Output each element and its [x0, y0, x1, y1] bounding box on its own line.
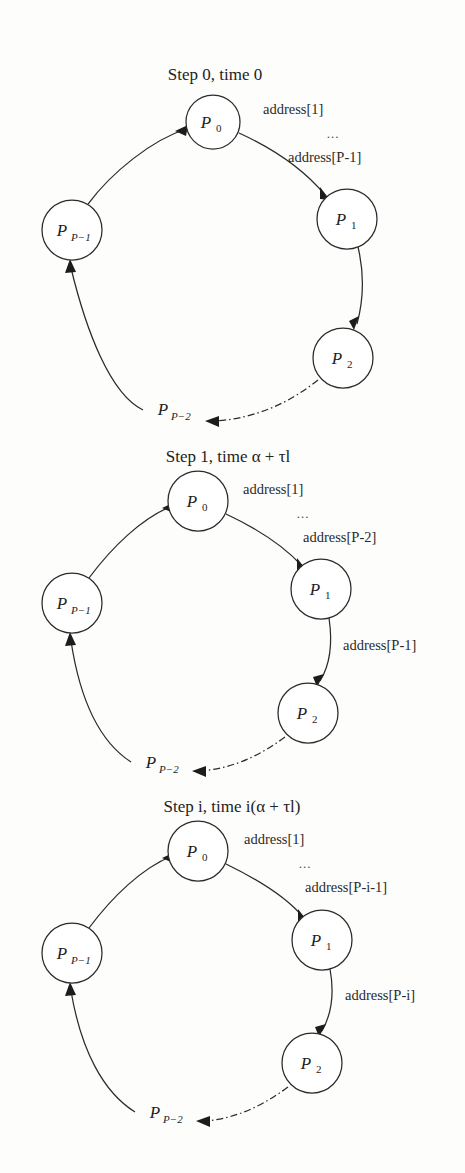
panel-step-1: Step 1, time α + τl P 0 — [42, 447, 416, 777]
node-sublabel-pPm1-step1: P−1 — [70, 604, 91, 616]
node-pPm2: P P−2 — [157, 400, 191, 422]
node-circle-pPm1-stepi — [42, 923, 102, 983]
edge-label-address-last-step-i: address[P-i-1] — [305, 879, 387, 895]
edge-p2-to-pPm2 — [216, 380, 318, 421]
node-p0-stepi: P 0 — [168, 821, 228, 881]
node-pPm2-step1: P P−2 — [145, 753, 179, 775]
node-label-p2-stepi: P — [300, 1054, 311, 1073]
node-sublabel-p2: 2 — [347, 358, 353, 370]
edge-pPm2-to-pPm1-step1 — [71, 641, 131, 762]
node-label-p2: P — [331, 349, 342, 368]
ring-diagram-canvas: Step 0, time 0 P 0 — [0, 0, 465, 1173]
edge-label-address-first-step-1: address[1] — [243, 481, 303, 497]
panel-caption-step-0: Step 0, time 0 — [168, 65, 262, 84]
edge-label-ellipsis-step-i: ... — [299, 856, 312, 871]
edge-p2-to-pPm2-stepi — [206, 1087, 288, 1121]
edge-label-address-last-step-1: address[P-2] — [303, 529, 376, 545]
node-sublabel-p1-step1: 1 — [325, 589, 331, 601]
edge-p2-to-pPm2-step1 — [202, 737, 285, 771]
node-label-pPm1-stepi: P — [56, 944, 67, 963]
node-sublabel-p0-stepi: 0 — [202, 851, 208, 863]
arrowhead-into-pPm1 — [65, 259, 76, 273]
node-circle-p0-stepi — [168, 821, 228, 881]
node-label-p2-step1: P — [296, 704, 307, 723]
node-label-pPm2-stepi: P — [149, 1103, 160, 1122]
edge-pPm2-to-pPm1-stepi — [71, 991, 135, 1112]
node-pPm1: P P−1 — [42, 200, 102, 260]
node-label-pPm2-step1: P — [145, 753, 156, 772]
node-label-p1-step1: P — [309, 580, 320, 599]
node-sublabel-pPm2: P−2 — [170, 410, 191, 422]
node-p0: P 0 — [186, 95, 240, 149]
node-label-p0-step1: P — [186, 492, 197, 511]
node-label-pPm2: P — [157, 400, 168, 419]
node-label-p1: P — [335, 210, 346, 229]
node-circle-p1-stepi — [292, 910, 352, 970]
node-p1-stepi: P 1 — [292, 910, 352, 970]
arrowhead-into-pPm1-step1 — [65, 632, 76, 646]
edge-label-address-first-step-0: address[1] — [263, 101, 323, 117]
panel-step-i: Step i, time i(α + τl) P 0 — [42, 797, 415, 1127]
node-sublabel-p0: 0 — [216, 122, 222, 134]
node-label-p0-stepi: P — [186, 842, 197, 861]
edge-p1-to-p2-stepi — [322, 969, 332, 1031]
node-p2-step1: P 2 — [278, 683, 338, 743]
node-pPm1-step1: P P−1 — [42, 573, 102, 633]
arrowhead-into-pPm2 — [205, 416, 219, 427]
edge-label-ellipsis-step-1: ... — [297, 506, 310, 521]
node-sublabel-pPm1-stepi: P−1 — [70, 954, 91, 966]
node-circle-p2-stepi — [282, 1033, 342, 1093]
node-label-pPm1-step1: P — [56, 594, 67, 613]
edge-pPm1-to-p0-stepi — [89, 856, 172, 928]
panel-caption-step-1: Step 1, time α + τl — [166, 447, 291, 466]
node-circle-p2 — [313, 328, 373, 388]
node-pPm1-stepi: P P−1 — [42, 923, 102, 983]
node-pPm2-stepi: P P−2 — [149, 1103, 183, 1125]
node-p2-stepi: P 2 — [282, 1033, 342, 1093]
node-sublabel-p2-step1: 2 — [312, 713, 318, 725]
node-p1: P 1 — [317, 189, 377, 249]
node-sublabel-p1: 1 — [351, 219, 357, 231]
edge-label-address-vertical-step-i: address[P-i] — [345, 987, 415, 1003]
panel-step-0: Step 0, time 0 P 0 — [42, 65, 377, 427]
node-circle-p1 — [317, 189, 377, 249]
node-sublabel-p2-stepi: 2 — [316, 1063, 322, 1075]
node-circle-p2-step1 — [278, 683, 338, 743]
edge-label-address-vertical-step-1: address[P-1] — [343, 637, 416, 653]
node-sublabel-pPm2-step1: P−2 — [158, 763, 179, 775]
node-p2: P 2 — [313, 328, 373, 388]
arrowhead-into-pPm1-stepi — [65, 982, 76, 996]
node-p0-step1: P 0 — [168, 471, 228, 531]
edge-pPm2-to-pPm1 — [71, 268, 143, 410]
node-circle-pPm1-step1 — [42, 573, 102, 633]
edge-pPm1-to-p0 — [88, 129, 186, 204]
edge-p0-to-p1-step1 — [226, 514, 302, 566]
node-sublabel-pPm2-stepi: P−2 — [162, 1113, 183, 1125]
node-circle-p0-step1 — [168, 471, 228, 531]
node-sublabel-p1-stepi: 1 — [326, 940, 332, 952]
edge-label-address-first-step-i: address[1] — [244, 831, 304, 847]
edge-label-ellipsis-step-0: ... — [327, 126, 340, 141]
node-p1-step1: P 1 — [291, 559, 351, 619]
arrowhead-into-pPm2-stepi — [196, 1116, 210, 1127]
edge-p0-to-p1-stepi — [226, 864, 303, 917]
arrowhead-into-pPm2-step1 — [192, 766, 206, 777]
node-sublabel-p0-step1: 0 — [202, 501, 208, 513]
node-sublabel-pPm1: P−1 — [70, 231, 91, 243]
edge-pPm1-to-p0-step1 — [89, 506, 172, 578]
edge-p1-to-p2-step1 — [320, 618, 331, 681]
node-label-p0: P — [200, 113, 211, 132]
node-label-p1-stepi: P — [310, 931, 321, 950]
node-circle-pPm1 — [42, 200, 102, 260]
node-circle-p0 — [186, 95, 240, 149]
edge-label-address-last-step-0: address[P-1] — [288, 149, 361, 165]
panel-caption-step-i: Step i, time i(α + τl) — [164, 797, 301, 816]
node-circle-p1-step1 — [291, 559, 351, 619]
node-label-pPm1: P — [56, 221, 67, 240]
figure-root: Step 0, time 0 P 0 — [0, 0, 465, 1173]
edge-p1-to-p2 — [357, 247, 362, 324]
